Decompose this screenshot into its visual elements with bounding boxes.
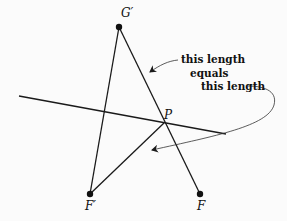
label-f: F (197, 199, 205, 213)
annotation-line1: this length (181, 53, 245, 65)
annotation-line3: this length (201, 80, 265, 92)
reflection-diagram: G′ P F′ F this length equals this length (0, 0, 287, 221)
diagram-svg (0, 0, 287, 221)
arrow-to-gprime-p (150, 60, 178, 72)
point-fprime (87, 191, 93, 197)
label-fprime: F′ (85, 199, 96, 213)
segment-gprime-fprime (90, 27, 119, 194)
annotation-line2: equals (190, 67, 228, 79)
point-gprime (116, 24, 122, 30)
label-gprime: G′ (121, 6, 133, 20)
mirror-line (19, 96, 226, 134)
label-p: P (164, 108, 172, 122)
point-f (197, 191, 203, 197)
